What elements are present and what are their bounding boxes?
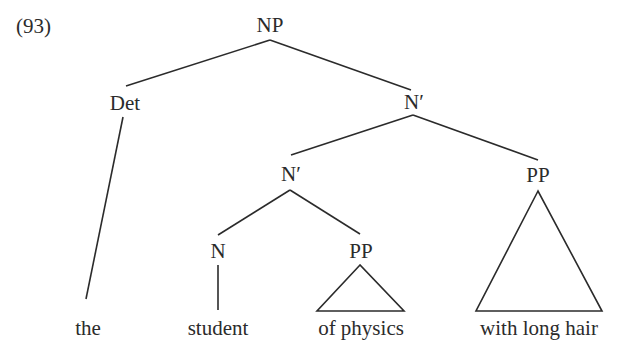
node-np: NP [257, 15, 284, 36]
example-number: (93) [16, 16, 51, 37]
syntax-tree-diagram: (93) NP Det N′ N′ PP N PP the student of… [0, 0, 626, 353]
node-pp-mid: PP [349, 241, 372, 262]
edge-nbar-pp [413, 115, 538, 160]
node-n: N [210, 241, 225, 262]
triangle-pp-right [476, 191, 602, 311]
node-nbar-top: N′ [404, 92, 424, 113]
node-pp-right: PP [526, 165, 549, 186]
edge-nbar-nbar [291, 115, 413, 155]
terminal-of-physics: of physics [318, 318, 404, 339]
terminal-student: student [188, 318, 249, 339]
terminal-with-long-hair: with long hair [480, 318, 598, 339]
edge-np-nbar [270, 40, 411, 90]
edge-nbar-n [218, 190, 290, 235]
triangle-pp-mid [317, 265, 404, 311]
edge-np-det [126, 40, 270, 86]
terminal-the: the [75, 318, 101, 339]
edge-nbar-ppmid [290, 190, 360, 234]
node-nbar-low: N′ [281, 164, 301, 185]
node-det: Det [110, 93, 140, 114]
edge-det-the [86, 117, 123, 299]
